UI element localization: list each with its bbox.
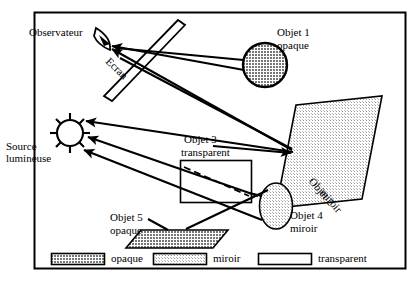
label-objet4-line2: miroir bbox=[290, 222, 318, 235]
legend-label-transparent: transparent bbox=[318, 252, 367, 265]
label-source-line1: Source bbox=[6, 140, 37, 153]
label-objet1-line1: Objet 1 bbox=[277, 26, 310, 39]
label-source-line2: lumineuse bbox=[6, 152, 51, 165]
legend-swatch-opaque bbox=[52, 254, 105, 265]
label-objet4-line1: Objet 4 bbox=[290, 209, 323, 222]
optics-diagram: Observateur Ecran Source lumineuse Objet… bbox=[0, 0, 418, 287]
label-objet5-line1: Objet 5 bbox=[110, 211, 143, 224]
legend-swatch-miroir bbox=[154, 254, 207, 265]
legend-swatch-transparent bbox=[259, 254, 312, 265]
label-objet3-line1: Objet 3 bbox=[184, 133, 217, 146]
legend-label-opaque: opaque bbox=[111, 252, 143, 265]
label-observateur: Observateur bbox=[29, 26, 83, 39]
source-lumineuse-shape[interactable] bbox=[50, 113, 90, 153]
legend-label-miroir: miroir bbox=[213, 252, 241, 265]
label-objet3-line2: transparent bbox=[181, 146, 230, 159]
objet-4-shape[interactable] bbox=[260, 183, 293, 229]
label-objet5-line2: opaque bbox=[110, 224, 142, 237]
label-objet1-line2: opaque bbox=[277, 39, 309, 52]
